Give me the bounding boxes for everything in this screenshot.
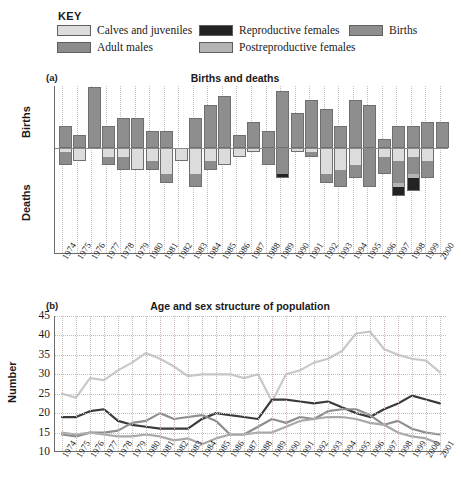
legend-item-births: Births [349,25,417,36]
panel-a-title: Births and deaths [120,72,350,84]
bar-deaths-calves [175,148,188,161]
bar-births [233,135,246,148]
bar-group [363,86,376,253]
gridline-vertical [328,316,329,451]
bar-deaths-adult-males [334,170,347,187]
bar-deaths-adult-males [262,148,275,165]
bar-deaths-calves [146,148,159,161]
bar-group [291,86,304,253]
gridline-vertical [104,316,105,451]
panel-b-plot-area [54,316,446,452]
bar-group [131,86,144,253]
bar-deaths-adult-males [160,174,173,183]
bar-births [117,118,130,148]
legend-items: Calves and juveniles Adult males Reprodu… [57,25,457,59]
gridline-vertical [426,316,427,451]
bar-deaths-adult-males [305,152,318,156]
bar-group [117,86,130,253]
bar-births [204,105,217,149]
bar-group [392,86,405,253]
bar-births [392,126,405,148]
bar-deaths-calves [160,148,173,174]
panel-b-x-axis-labels: 1974197519761977197819791980198119821983… [0,454,461,500]
panel-a-zero-line [55,148,448,149]
legend-swatch-reproductive-females [199,25,233,36]
bar-births [146,131,159,148]
bar-deaths-adult-males [59,152,72,165]
gridline-vertical [76,316,77,451]
bar-births [102,126,115,148]
gridline-horizontal [55,335,446,336]
gridline-vertical [356,316,357,451]
legend-item-calves-and-juveniles: Calves and juveniles [57,25,192,36]
bar-group [349,86,362,253]
bar-deaths-reproductive [276,174,289,178]
bar-group [102,86,115,253]
gridline-vertical [188,316,189,451]
bar-births [189,118,202,148]
legend-swatch-postreproductive-females [199,42,233,53]
bar-births [276,91,289,148]
bar-births [334,126,347,148]
bar-deaths-calves [392,148,405,161]
bar-group [334,86,347,253]
legend-item-postreproductive-females: Postreproductive females [199,42,356,53]
gridline-horizontal [55,374,446,375]
bar-deaths-adult-males [189,174,202,187]
legend-item-reproductive-females: Reproductive females [199,25,340,36]
bar-deaths-calves [204,148,217,161]
bar-deaths-adult-males [421,161,434,178]
bar-deaths-calves [189,148,202,174]
bar-births [305,100,318,148]
gridline-vertical [398,316,399,451]
bar-births [59,126,72,148]
gridline-vertical [174,316,175,451]
panel-b-age-and-sex-structure: (b) Age and sex structure of population … [0,298,461,504]
bar-births [349,100,362,148]
bar-group [262,86,275,253]
y-axis-tick-label: 35 [22,349,50,361]
gridline-vertical [258,316,259,451]
bar-births [436,122,449,148]
bar-deaths-calves [233,148,246,157]
bar-group [204,86,217,253]
y-axis-tick-label: 30 [22,368,50,380]
bar-deaths-adult-males [320,174,333,183]
gridline-horizontal [55,433,446,434]
bar-deaths-calves [131,148,144,170]
bar-group [378,86,391,253]
bar-group [436,86,449,253]
gridline-vertical [230,316,231,451]
bar-births [131,118,144,148]
bar-deaths-calves [334,148,347,170]
bar-group [175,86,188,253]
bar-group [73,86,86,253]
legend-label-postreproductive-females: Postreproductive females [239,42,356,53]
bar-births [320,109,333,148]
bar-births [291,113,304,148]
gridline-vertical [90,316,91,451]
bar-group [421,86,434,253]
bar-group [88,86,101,253]
panel-a-births-and-deaths: (a) Births and deaths Births Deaths 1974… [0,68,461,293]
gridline-horizontal [55,413,446,414]
gridline-vertical [272,316,273,451]
bar-deaths-calves [349,148,362,165]
gridline-vertical [440,316,441,451]
legend-label-reproductive-females: Reproductive females [239,25,340,36]
legend-swatch-calves-and-juveniles [57,25,91,36]
bar-deaths-adult-males [146,161,159,170]
bar-group [146,86,159,253]
bar-births [160,131,173,148]
gridline-vertical [244,316,245,451]
y-axis-tick-label: 20 [22,407,50,419]
bar-deaths-calves [378,148,391,157]
bar-deaths-reproductive [392,187,405,196]
gridline-vertical [160,316,161,451]
gridline-vertical [202,316,203,451]
bar-deaths-calves [117,148,130,157]
bar-deaths-calves [102,148,115,157]
bar-deaths-adult-males [392,161,405,183]
gridline-horizontal [55,355,446,356]
bar-births [73,135,86,148]
